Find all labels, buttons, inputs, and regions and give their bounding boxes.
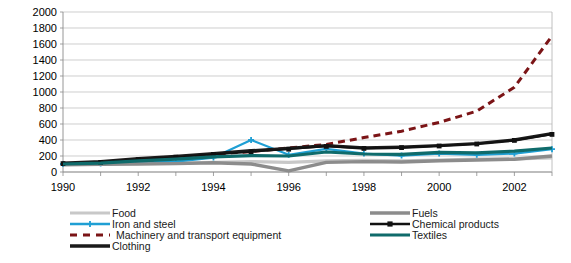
legend-label: Textiles [412,229,447,241]
series-marker [437,144,442,149]
y-tick-label-600: 600 [39,118,57,130]
y-tick-label-2000: 2000 [33,6,57,18]
series-marker [512,138,517,143]
y-tick-label-1200: 1200 [33,70,57,82]
x-tick-label-2002: 2002 [502,181,526,193]
series-marker [286,147,291,152]
line-chart: 0200400600800100012001400160018002000 19… [0,0,571,263]
y-tick-label-0: 0 [51,166,57,178]
series-marker [474,142,479,147]
legend-label: Clothing [112,240,151,252]
x-tick-label-1998: 1998 [352,181,376,193]
y-tick-label-200: 200 [39,150,57,162]
y-tick-label-1400: 1400 [33,54,57,66]
series-marker [324,144,329,149]
x-tick-label-2000: 2000 [427,181,451,193]
y-tick-label-1800: 1800 [33,22,57,34]
series-marker [550,132,555,137]
series-marker [249,150,254,155]
series-marker [362,146,367,151]
x-tick-label-1992: 1992 [126,181,150,193]
y-tick-label-1000: 1000 [33,86,57,98]
y-tick-label-800: 800 [39,102,57,114]
x-tick-label-1994: 1994 [201,181,225,193]
chart-canvas: 0200400600800100012001400160018002000 19… [0,0,571,263]
series-marker [399,145,404,150]
y-tick-label-400: 400 [39,134,57,146]
x-tick-label-1990: 1990 [51,181,75,193]
x-tick-label-1996: 1996 [276,181,300,193]
y-tick-label-1600: 1600 [33,38,57,50]
legend-marker [387,221,392,226]
